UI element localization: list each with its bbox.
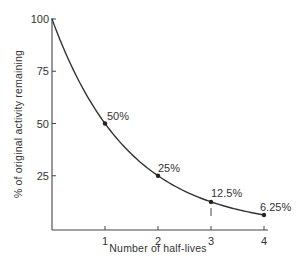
y-tick-label: 75 [37, 65, 49, 77]
x-tick-label: 3 [208, 235, 214, 247]
data-point [103, 121, 107, 125]
point-label: 25% [158, 162, 180, 174]
data-point [262, 213, 266, 217]
x-tick-label: 1 [102, 235, 108, 247]
decay-curve [52, 19, 264, 215]
x-tick-label: 4 [261, 235, 267, 247]
data-point [209, 200, 213, 204]
half-life-decay-chart: 100755025 1234 50%25%12.5%6.25% Number o… [0, 0, 304, 275]
data-point [156, 174, 160, 178]
data-points: 50%25%12.5%6.25% [103, 110, 292, 218]
y-tick-label: 25 [37, 170, 49, 182]
point-label: 6.25% [260, 201, 291, 213]
point-label: 12.5% [211, 187, 242, 199]
point-label: 50% [107, 110, 129, 122]
y-tick-label: 50 [37, 118, 49, 130]
x-axis-title: Number of half-lives [109, 242, 206, 254]
y-axis-title: % of original activity remaining [12, 50, 24, 198]
y-tick-label: 100 [31, 13, 49, 25]
